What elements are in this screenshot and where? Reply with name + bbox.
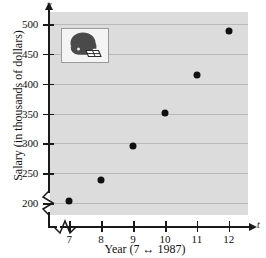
data-point xyxy=(193,71,200,78)
y-axis-title: Salary (in thousands of dollars) xyxy=(11,8,26,204)
y-axis-symbol: y xyxy=(47,0,51,10)
data-point xyxy=(66,198,73,205)
x-tick xyxy=(133,221,135,232)
gridline xyxy=(50,24,248,25)
x-tick xyxy=(69,221,71,232)
football-helmet-icon xyxy=(62,29,108,62)
y-tick xyxy=(43,203,54,205)
data-point xyxy=(130,143,137,150)
x-tick xyxy=(197,221,199,232)
y-tick xyxy=(43,143,54,145)
y-tick xyxy=(43,24,54,26)
scatter-plot-figure: y t 200250300350400450500 789101112 Sala… xyxy=(0,0,266,258)
y-tick xyxy=(43,173,54,175)
gridline xyxy=(50,114,248,115)
football-helmet-inset xyxy=(61,28,109,63)
y-tick xyxy=(43,84,54,86)
y-tick xyxy=(43,114,54,116)
data-point xyxy=(225,28,232,35)
x-tick xyxy=(229,221,231,232)
data-point xyxy=(161,109,168,116)
y-axis-line xyxy=(48,8,50,193)
data-point xyxy=(98,176,105,183)
gridline xyxy=(50,203,248,204)
gridline xyxy=(50,84,248,85)
y-tick xyxy=(43,54,54,56)
x-axis-symbol: t xyxy=(257,219,260,230)
x-tick xyxy=(101,221,103,232)
gridline xyxy=(50,143,248,144)
x-axis-line xyxy=(60,226,250,228)
x-axis-title: Year (7 ↔ 1987) xyxy=(45,242,245,257)
gridline xyxy=(50,173,248,174)
x-tick xyxy=(165,221,167,232)
x-axis-arrow xyxy=(249,223,257,231)
